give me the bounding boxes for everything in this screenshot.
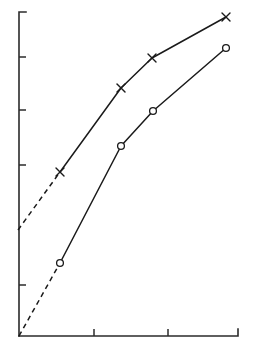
series-circle-series	[19, 45, 229, 336]
cross-series-marker	[56, 168, 64, 176]
cross-series-extrapolation-line	[18, 172, 60, 230]
circle-series-extrapolation-line	[19, 263, 60, 336]
cross-series-marker	[117, 84, 125, 92]
chart-figure	[0, 0, 254, 358]
circle-series-marker	[118, 143, 125, 150]
circle-series-marker	[57, 260, 64, 267]
circle-series-line	[60, 48, 226, 263]
circle-series-marker	[223, 45, 230, 52]
cross-series-marker	[222, 13, 230, 21]
circle-series-marker	[150, 108, 157, 115]
y-axis-ticks	[19, 57, 26, 285]
cross-series-marker	[148, 54, 156, 62]
x-axis	[19, 329, 238, 336]
plot-area	[0, 0, 254, 358]
axes-group	[19, 12, 238, 336]
x-axis-ticks	[94, 329, 168, 336]
series-cross-series	[18, 13, 230, 230]
cross-series-line	[60, 17, 226, 172]
y-axis	[19, 12, 26, 336]
